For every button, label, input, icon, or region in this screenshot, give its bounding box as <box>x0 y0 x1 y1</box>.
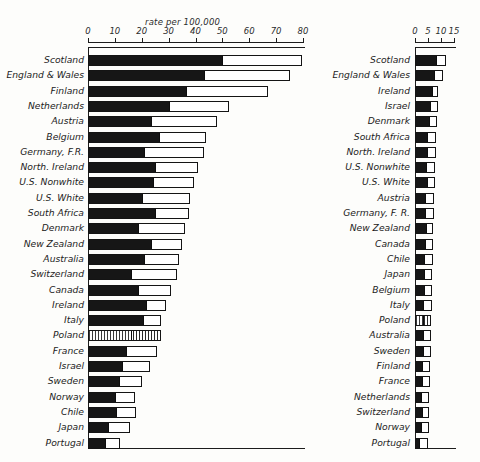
category-label: Austria <box>52 115 84 127</box>
category-label: Poland <box>53 329 84 341</box>
bar-total <box>415 285 432 296</box>
bar-dark-segment <box>89 240 152 249</box>
bar-total <box>88 300 166 311</box>
bar-total <box>88 177 194 188</box>
bar-dark-segment <box>416 87 433 96</box>
axis-baseline <box>415 42 455 43</box>
bar-total <box>415 132 436 143</box>
category-label: Norway <box>49 391 84 403</box>
category-label: Israel <box>385 100 410 112</box>
bar-dark-segment <box>89 286 139 295</box>
bar-dark-segment <box>416 178 428 187</box>
category-label: Australia <box>369 329 410 341</box>
bar-dark-segment <box>416 286 425 295</box>
axis-tick-label: 20 <box>136 26 147 36</box>
bar-total <box>415 269 432 280</box>
bar-dark-segment <box>416 393 422 402</box>
axis-tick-label: 60 <box>244 26 255 36</box>
bar-dark-segment <box>89 194 143 203</box>
bar-total <box>415 422 429 433</box>
bar-total <box>88 285 171 296</box>
bar-dark-segment <box>416 347 424 356</box>
bar-dark-segment <box>89 377 120 386</box>
category-label: Belgium <box>46 131 84 143</box>
bar-total <box>88 147 204 158</box>
category-label: U.S. White <box>362 176 410 188</box>
bar-total <box>415 376 430 387</box>
bar-total <box>88 269 177 280</box>
bar-total <box>415 162 435 173</box>
category-label: New Zealand <box>24 238 84 250</box>
bar-dark-segment <box>416 148 428 157</box>
category-label: Portugal <box>372 437 410 449</box>
bar-total <box>415 193 434 204</box>
bar-total <box>88 116 217 127</box>
bar-total <box>88 407 136 418</box>
category-label: Japan <box>384 268 410 280</box>
bar-dark-segment <box>416 133 428 142</box>
bar-total <box>415 177 435 188</box>
bar-total <box>415 254 433 265</box>
right-axis: 051015 <box>318 26 480 40</box>
bar-dark-segment <box>416 117 430 126</box>
bar-dark-segment <box>89 71 205 80</box>
category-label: England & Wales <box>6 69 84 81</box>
axis-baseline <box>88 42 304 43</box>
category-label: South Africa <box>28 207 84 219</box>
category-label: Finland <box>51 85 85 97</box>
axis-tick-label: 50 <box>217 26 228 36</box>
bar-total <box>88 193 190 204</box>
category-label: Israel <box>59 360 84 372</box>
bar-dark-segment <box>416 209 426 218</box>
category-label: Canada <box>49 284 84 296</box>
bar-total <box>415 70 443 81</box>
category-label: New Zealand <box>350 222 410 234</box>
axis-tick-label: 70 <box>271 26 282 36</box>
category-label: Switzerland <box>356 406 410 418</box>
category-label: Canada <box>375 238 410 250</box>
bar-dark-segment <box>89 270 132 279</box>
bar-total <box>415 55 446 66</box>
bar-dark-segment <box>89 408 117 417</box>
bar-dark-segment <box>416 102 431 111</box>
bar-total <box>415 86 438 97</box>
bar-total <box>415 330 431 341</box>
bar-total <box>415 438 428 449</box>
bar-total <box>415 315 431 326</box>
category-label: North. Ireland <box>346 146 410 158</box>
bar-total <box>88 55 302 66</box>
bar-dark-segment <box>416 377 423 386</box>
axis-tick-label: 0 <box>85 26 90 36</box>
category-label: U.S. Nonwhite <box>345 161 410 173</box>
category-label: Italy <box>390 299 410 311</box>
bar-dark-segment <box>89 87 187 96</box>
category-label: Norway <box>375 421 410 433</box>
bar-total <box>88 239 182 250</box>
left-chart-panel: rate per 100,000 01020304050607080 Scotl… <box>0 0 318 462</box>
bar-dark-segment <box>89 148 145 157</box>
bar-total <box>415 407 429 418</box>
category-label: Austria <box>378 192 410 204</box>
bar-total <box>415 392 429 403</box>
bar-total <box>415 223 433 234</box>
category-label: Ireland <box>52 299 84 311</box>
category-label: Netherlands <box>28 100 84 112</box>
category-label: North. Ireland <box>20 161 84 173</box>
bar-dark-segment <box>416 301 424 310</box>
bar-total <box>88 315 161 326</box>
bar-dark-segment <box>416 331 424 340</box>
bar-total <box>88 70 290 81</box>
bar-total <box>88 162 198 173</box>
figure-canvas: rate per 100,000 01020304050607080 Scotl… <box>0 0 480 462</box>
bar-total <box>88 86 268 97</box>
bar-total <box>88 254 179 265</box>
bar-dark-segment <box>89 439 106 448</box>
bar-dark-segment <box>89 133 160 142</box>
bar-dark-segment <box>89 56 223 65</box>
category-label: Chile <box>387 253 410 265</box>
bar-total <box>415 239 433 250</box>
bar-dark-segment <box>416 439 420 448</box>
bar-dark-segment <box>89 102 170 111</box>
category-label: South Africa <box>354 131 410 143</box>
bar-total <box>88 346 157 357</box>
